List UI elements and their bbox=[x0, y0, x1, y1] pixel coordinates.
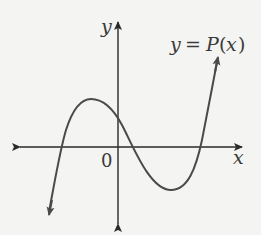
polynomial-graph: y x 0 y = P ( x ) bbox=[0, 0, 261, 235]
curve-eq-y: y bbox=[169, 33, 181, 55]
x-axis-label: x bbox=[233, 146, 244, 168]
polynomial-curve bbox=[49, 62, 217, 212]
curve-eq-paren-close: ) bbox=[238, 33, 245, 55]
curve-eq-P: P bbox=[205, 33, 220, 55]
curve-eq-equals: = bbox=[185, 33, 201, 55]
y-axis-label: y bbox=[100, 15, 112, 37]
curve-equation-label: y = P ( x ) bbox=[169, 33, 245, 55]
origin-label: 0 bbox=[101, 150, 112, 171]
curve-eq-x: x bbox=[226, 33, 237, 55]
